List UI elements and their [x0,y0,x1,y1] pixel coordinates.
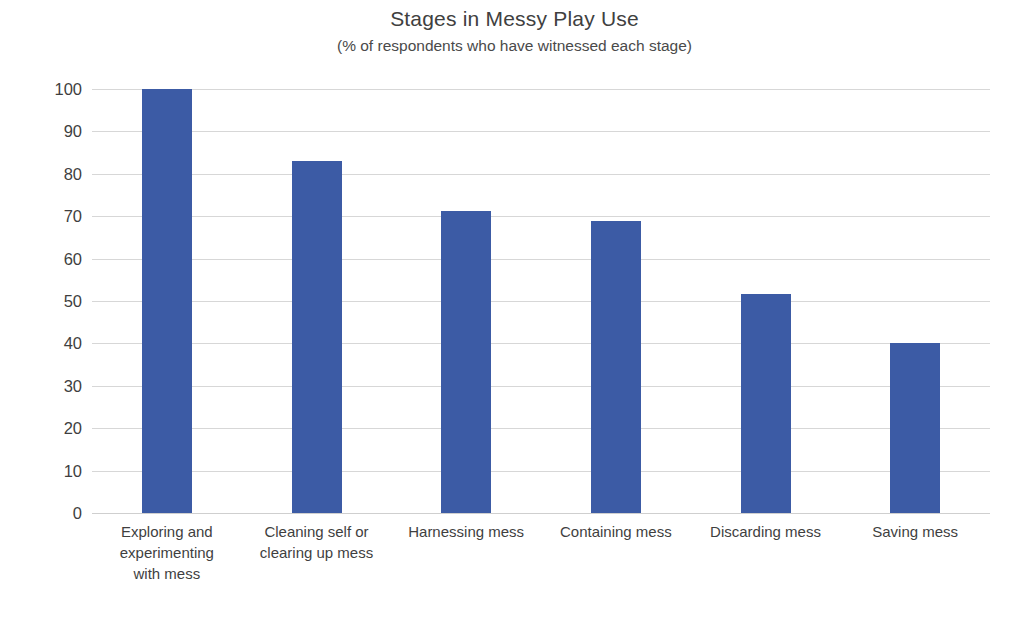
x-axis-label-line: Exploring and [92,521,242,542]
x-axis-label-3: Harnessing mess [391,521,541,542]
x-axis-label-line: with mess [92,563,242,584]
bar-5 [741,294,791,513]
x-axis-label-5: Discarding mess [691,521,841,542]
bar-4 [591,221,641,513]
chart-title-block: Stages in Messy Play Use (% of responden… [0,6,1029,57]
y-axis-tick-10: 10 [64,462,82,479]
x-axis-label-line: Harnessing mess [391,521,541,542]
x-axis-label-1: Exploring andexperimentingwith mess [92,521,242,584]
x-axis-label-line: Saving mess [840,521,990,542]
x-axis-label-line: Cleaning self or [242,521,392,542]
y-axis-tick-70: 70 [64,208,82,225]
y-axis-tick-40: 40 [64,335,82,352]
chart-subtitle: (% of respondents who have witnessed eac… [0,35,1029,57]
x-axis-label-4: Containing mess [541,521,691,542]
x-axis-label-line: experimenting [92,542,242,563]
x-axis-label-line: Discarding mess [691,521,841,542]
y-axis-tick-0: 0 [73,505,82,522]
bar-1 [142,89,192,513]
gridline-0 [92,513,990,514]
x-axis-label-2: Cleaning self orclearing up mess [242,521,392,563]
bar-6 [890,343,940,513]
x-axis-label-line: clearing up mess [242,542,392,563]
bars-layer [92,89,990,513]
y-axis-tick-60: 60 [64,250,82,267]
y-axis-tick-30: 30 [64,378,82,395]
bar-3 [441,211,491,513]
bar-chart: Stages in Messy Play Use (% of responden… [0,0,1029,622]
y-axis-tick-20: 20 [64,420,82,437]
page-title: Stages in Messy Play Use [0,6,1029,32]
y-axis: 1009080706050403020100 [30,89,82,513]
y-axis-tick-80: 80 [64,166,82,183]
x-axis: Exploring andexperimentingwith messClean… [92,521,990,616]
x-axis-label-6: Saving mess [840,521,990,542]
y-axis-tick-50: 50 [64,293,82,310]
x-axis-label-line: Containing mess [541,521,691,542]
plot-area [92,89,990,513]
y-axis-tick-100: 100 [54,81,82,98]
bar-2 [292,161,342,513]
y-axis-tick-90: 90 [64,123,82,140]
